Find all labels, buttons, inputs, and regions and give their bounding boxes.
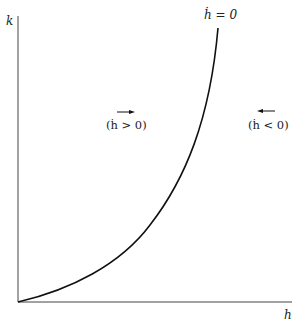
h-dot-zero-curve	[18, 28, 218, 302]
phase-diagram	[0, 0, 301, 325]
y-axis-label: k	[6, 14, 13, 28]
region-left-label: (ḣ > 0)	[106, 118, 147, 132]
curve-label: ḣ = 0	[204, 8, 237, 22]
region-right-label: (ḣ < 0)	[248, 118, 289, 132]
left-arrow-icon	[257, 109, 275, 113]
right-arrow-icon	[117, 110, 135, 114]
x-axis-label: h	[284, 308, 292, 322]
